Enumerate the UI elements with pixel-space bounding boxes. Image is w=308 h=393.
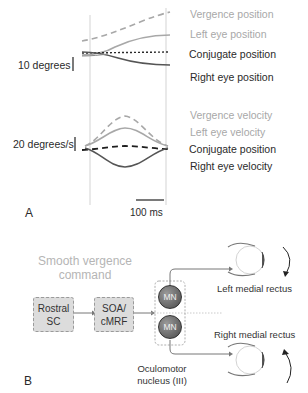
right-medial-rectus-label: Right medial rectus: [214, 329, 295, 340]
velocity-scale-label: 20 degrees/s: [13, 138, 74, 150]
position-scale-label: 10 degrees: [18, 59, 71, 71]
mn-top-node: MN: [158, 285, 182, 309]
legend-vergence-velocity: Vergence velocity: [190, 109, 272, 121]
legend-conjugate-position: Conjugate position: [189, 48, 276, 60]
legend-right-eye-velocity: Right eye velocity: [190, 160, 272, 172]
smooth-vergence-title: Smooth vergence command: [34, 254, 136, 282]
rostral-sc-box: Rostral SC: [33, 297, 74, 332]
soa-cmrf-box: SOA/ cMRF: [94, 297, 134, 332]
legend-conjugate-velocity: Conjugate position: [189, 143, 276, 155]
left-medial-rectus-label: Left medial rectus: [217, 283, 292, 294]
legend-left-eye-position: Left eye position: [190, 28, 266, 40]
right-eye-icon: [228, 343, 264, 375]
panel-a-label: A: [25, 206, 33, 220]
legend-left-eye-velocity: Left eye velocity: [190, 126, 265, 138]
panel-b-label: B: [24, 374, 32, 388]
mn-bottom-node: MN: [158, 315, 182, 339]
left-eye-icon: [228, 243, 264, 275]
legend-vergence-position: Vergence position: [190, 8, 273, 20]
legend-right-eye-position: Right eye position: [190, 71, 273, 83]
oculomotor-nucleus-label: Oculomotor nucleus (III): [132, 363, 192, 387]
time-scale-label: 100 ms: [130, 207, 163, 218]
